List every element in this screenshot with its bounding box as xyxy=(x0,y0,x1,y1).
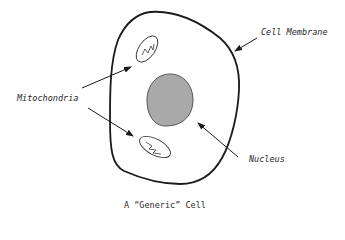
mitochondrion-lower xyxy=(136,132,174,162)
diagram-caption: A “Generic” Cell xyxy=(124,201,206,210)
label-cell-membrane: Cell Membrane xyxy=(261,28,328,37)
mitochondrion-upper xyxy=(132,32,162,66)
arrow-mito-upper xyxy=(82,67,131,88)
arrow-nucleus xyxy=(198,123,238,157)
nucleus xyxy=(147,74,193,126)
arrow-membrane xyxy=(235,38,257,51)
label-mitochondria: Mitochondria xyxy=(17,94,78,103)
label-nucleus: Nucleus xyxy=(249,155,285,164)
